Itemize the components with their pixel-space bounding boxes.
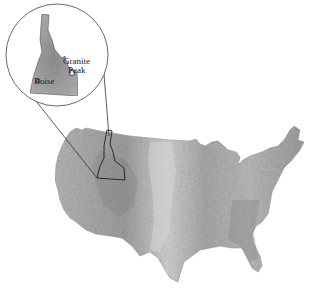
southeast-lowlands bbox=[228, 200, 260, 262]
relief-map: Granite Peak Boise bbox=[0, 0, 320, 294]
boise-label: Boise bbox=[34, 76, 55, 86]
idaho-inset: Granite Peak Boise bbox=[6, 4, 108, 106]
peak-label: Peak bbox=[68, 65, 86, 75]
us-landmass bbox=[55, 126, 304, 282]
us-map bbox=[55, 126, 304, 282]
